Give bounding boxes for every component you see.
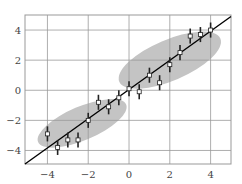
data-point-marker	[117, 96, 121, 100]
x-tick-label: −2	[81, 169, 96, 180]
x-tick-label: 0	[126, 169, 132, 180]
data-point-marker	[107, 105, 111, 109]
scatter-chart: −4−2024 −4−2024	[0, 0, 242, 184]
y-tick-label: 4	[15, 25, 21, 36]
data-point-marker	[168, 63, 172, 67]
data-point-marker	[188, 34, 192, 38]
data-point-marker	[147, 73, 151, 77]
x-tick-label: −4	[40, 169, 55, 180]
x-axis-ticks: −4−2024	[40, 169, 214, 180]
data-point-marker	[127, 87, 131, 91]
data-point-marker	[198, 33, 202, 37]
y-tick-label: −4	[6, 145, 21, 156]
y-tick-label: 0	[15, 85, 21, 96]
data-point-marker	[56, 145, 60, 149]
y-axis-ticks: −4−2024	[6, 25, 21, 156]
data-point-marker	[76, 138, 80, 142]
data-point-marker	[209, 28, 213, 32]
data-point-marker	[96, 100, 100, 104]
data-point-marker	[158, 81, 162, 85]
y-tick-label: −2	[6, 115, 21, 126]
data-point-marker	[137, 90, 141, 94]
data-point-marker	[178, 51, 182, 55]
y-tick-label: 2	[15, 55, 21, 66]
x-tick-label: 2	[167, 169, 173, 180]
x-tick-label: 4	[207, 169, 213, 180]
data-point-marker	[86, 118, 90, 122]
data-point-marker	[66, 138, 70, 142]
data-point-marker	[45, 132, 49, 136]
